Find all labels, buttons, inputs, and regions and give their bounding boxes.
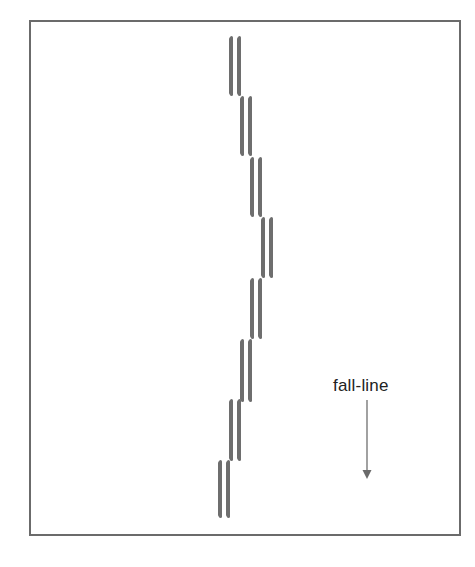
left-ski bbox=[261, 218, 265, 277]
ski-pair-2 bbox=[240, 97, 252, 155]
fall-line-label: fall-line bbox=[333, 376, 389, 396]
ski-pair-4 bbox=[261, 218, 273, 277]
right-ski bbox=[226, 461, 230, 517]
ski-pair-1 bbox=[229, 37, 241, 95]
right-ski bbox=[258, 158, 262, 216]
ski-tracks bbox=[0, 0, 475, 567]
right-ski bbox=[237, 400, 241, 460]
down-arrow-icon bbox=[360, 400, 374, 480]
right-ski bbox=[258, 279, 262, 338]
left-ski bbox=[240, 97, 244, 155]
left-ski bbox=[218, 461, 222, 517]
left-ski bbox=[229, 400, 233, 460]
right-ski bbox=[248, 97, 252, 155]
ski-pair-8 bbox=[218, 461, 230, 517]
right-ski bbox=[269, 218, 273, 277]
right-ski bbox=[248, 340, 252, 401]
left-ski bbox=[250, 158, 254, 216]
ski-pair-3 bbox=[250, 158, 262, 216]
left-ski bbox=[250, 279, 254, 338]
left-ski bbox=[240, 340, 244, 401]
ski-pair-5 bbox=[250, 279, 262, 338]
right-ski bbox=[237, 37, 241, 95]
ski-pair-6 bbox=[240, 340, 252, 401]
ski-pair-7 bbox=[229, 400, 241, 460]
left-ski bbox=[229, 37, 233, 95]
